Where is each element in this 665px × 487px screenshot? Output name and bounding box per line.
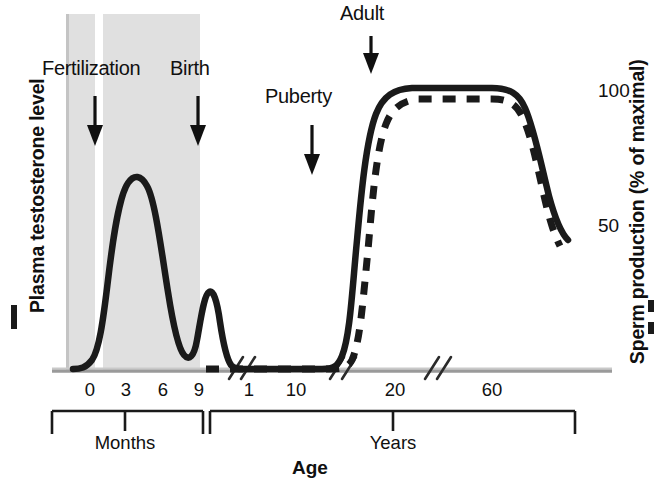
annotation-label-adult: Adult [340, 3, 384, 23]
x-tick-20yr: 20 [375, 381, 415, 400]
annotation-label-birth: Birth [170, 58, 210, 78]
months-bracket [52, 411, 203, 434]
x-tick-3: 3 [106, 381, 146, 400]
left-axis-title: Plasma testosterone level [28, 46, 48, 346]
annotation-label-puberty: Puberty [265, 86, 332, 106]
x-tick-10yr: 10 [276, 381, 316, 400]
testosterone-sperm-production-figure: Plasma testosterone level Sperm producti… [0, 0, 665, 487]
group-brackets [52, 411, 575, 434]
x-tick-6: 6 [143, 381, 183, 400]
y2-tick-50: 50 [598, 216, 619, 235]
adult-arrow [363, 36, 379, 74]
sperm-production-curve [206, 99, 560, 369]
x-axis-title: Age [0, 458, 620, 477]
x-tick-60yr: 60 [472, 381, 512, 400]
group-label-months: Months [65, 434, 185, 453]
puberty-arrow [304, 125, 320, 175]
y2-tick-100: 100 [598, 81, 630, 100]
x-tick-1yr: 1 [229, 381, 269, 400]
right-axis-title: Sperm production (% of maximal) [628, 47, 648, 377]
group-label-years: Years [333, 434, 453, 453]
x-tick-9: 9 [179, 381, 219, 400]
annotation-label-fertilization: Fertilization [42, 58, 140, 78]
x-tick-0: 0 [70, 381, 110, 400]
